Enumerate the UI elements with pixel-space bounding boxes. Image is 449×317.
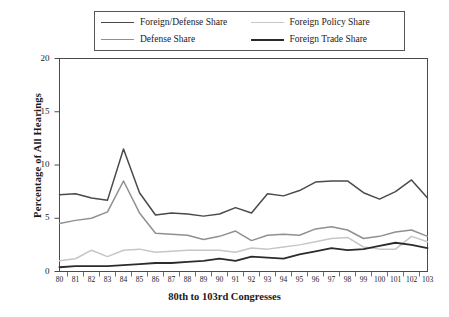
x-tick-label: 85 [136,276,144,284]
x-tick-label: 103 [422,276,433,284]
x-tick-label: 97 [328,276,336,284]
x-tick-label: 101 [390,276,401,284]
x-tick-label: 91 [232,276,240,284]
y-tick-label: 20 [26,54,50,63]
y-tick-label: 0 [26,267,50,276]
y-tick-label: 15 [26,107,50,116]
x-tick-label: 80 [56,276,64,284]
x-tick-label: 99 [360,276,368,284]
plot-canvas [0,0,449,317]
x-tick-label: 87 [168,276,176,284]
data-series-group [60,149,428,267]
x-tick-label: 83 [104,276,112,284]
x-axis-title: 80th to 103rd Congresses [0,291,449,302]
x-tick-label: 84 [120,276,128,284]
x-tick-label: 94 [280,276,288,284]
y-axis-ticks [55,59,60,272]
x-tick-label: 89 [200,276,208,284]
series-line-foreign-policy-share [60,236,428,260]
series-line-foreign-defense-share [60,149,428,216]
chart-figure: Foreign/Defense Share Foreign Policy Sha… [0,0,449,317]
x-tick-label: 96 [312,276,320,284]
x-tick-label: 86 [152,276,160,284]
x-tick-label: 102 [406,276,417,284]
x-tick-label: 98 [344,276,352,284]
x-tick-label: 82 [88,276,96,284]
x-tick-label: 88 [184,276,192,284]
x-tick-label: 90 [216,276,224,284]
y-tick-label: 5 [26,213,50,222]
x-tick-label: 100 [374,276,385,284]
x-tick-label: 95 [296,276,304,284]
x-tick-label: 92 [248,276,256,284]
series-line-foreign-trade-share [60,243,428,267]
x-tick-label: 93 [264,276,272,284]
x-tick-label: 81 [72,276,80,284]
y-tick-label: 10 [26,160,50,169]
